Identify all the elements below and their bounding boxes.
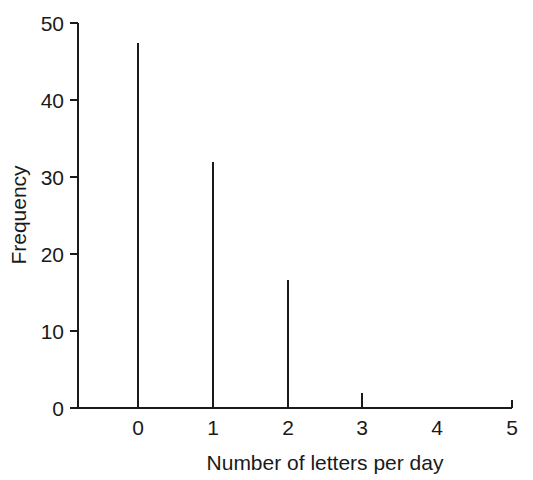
x-axis-title: Number of letters per day	[207, 451, 444, 474]
y-tick-label-40: 40	[41, 89, 64, 112]
y-tick-label-20: 20	[41, 243, 64, 266]
y-tick-label-30: 30	[41, 166, 64, 189]
y-tick-label-10: 10	[41, 320, 64, 343]
y-tick-label-50: 50	[41, 12, 64, 35]
x-tick-label-4: 4	[431, 416, 443, 439]
chart-canvas: 50 40 30 20 10 0 0 1 2 3 4 5 Number of l…	[0, 0, 533, 480]
y-tick-label-0: 0	[52, 397, 64, 420]
x-tick-label-2: 2	[282, 416, 294, 439]
frequency-spike-chart: 50 40 30 20 10 0 0 1 2 3 4 5 Number of l…	[0, 0, 533, 480]
x-tick-label-1: 1	[207, 416, 219, 439]
x-tick-label-3: 3	[356, 416, 368, 439]
x-tick-label-0: 0	[132, 416, 144, 439]
x-tick-label-5: 5	[506, 416, 518, 439]
y-axis-title: Frequency	[7, 165, 30, 265]
